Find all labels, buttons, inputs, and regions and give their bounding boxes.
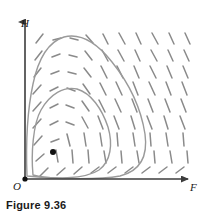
trajectory-inner-orbit — [32, 88, 110, 178]
slope-mark-row — [33, 99, 186, 112]
slope-mark-row — [34, 133, 184, 146]
origin-dot — [22, 176, 27, 181]
figure-caption: Figure 9.36 — [6, 199, 66, 211]
figure-container: H F O Figure 9.36 — [0, 0, 209, 219]
equilibrium-point — [50, 149, 56, 155]
axis-label-h: H — [21, 18, 29, 29]
axis-label-f: F — [190, 182, 197, 193]
slope-mark-row — [40, 167, 184, 176]
axis-label-origin: O — [13, 181, 21, 192]
slope-mark-row — [35, 50, 189, 61]
direction-field — [33, 33, 190, 176]
slope-mark-row — [36, 150, 188, 163]
phase-plane-plot — [0, 0, 209, 219]
slope-mark-row — [33, 116, 185, 129]
slope-mark-row — [34, 66, 188, 78]
